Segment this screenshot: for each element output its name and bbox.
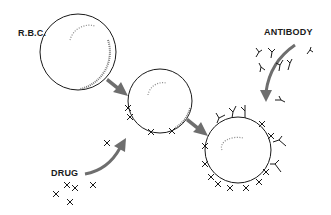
rbc-cell xyxy=(40,14,116,90)
drug-arrow-icon xyxy=(85,138,126,174)
antibody-bound-cell xyxy=(202,105,286,191)
arrow-icon xyxy=(106,78,128,96)
antibody-arrow-icon xyxy=(260,45,295,102)
arrow-icon xyxy=(186,118,208,136)
rbc-label: R.B.C. xyxy=(18,28,46,38)
drug-coated-cell xyxy=(125,69,192,135)
antibody-label: ANTIBODY xyxy=(264,27,313,37)
drug-label: DRUG xyxy=(51,168,78,178)
